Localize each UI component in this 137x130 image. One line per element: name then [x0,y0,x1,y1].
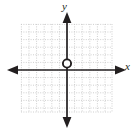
y-axis-arrow-down [63,117,72,128]
x-axis-label: x [125,61,130,72]
data-point-open-circle [63,59,71,67]
x-axis-arrow-left [7,66,18,75]
graph-canvas [0,0,137,130]
coordinate-plane-graph: y x [0,0,137,130]
y-axis-label: y [62,1,67,12]
y-axis-arrow-up [63,12,72,23]
